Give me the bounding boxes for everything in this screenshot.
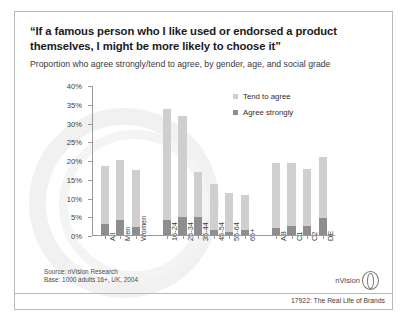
stacked-bar[interactable] [287, 163, 295, 236]
nvision-ellipse-icon [362, 271, 379, 290]
x-axis-tick [276, 236, 277, 239]
stacked-bar[interactable] [319, 157, 327, 236]
y-axis-tick-label: 15% [67, 175, 82, 184]
page-title: “If a famous person who I like used or e… [30, 24, 375, 53]
y-axis-tick-label: 10% [67, 194, 82, 203]
y-axis-tick-label: 35% [67, 100, 82, 109]
bar-segment [163, 109, 171, 220]
y-axis-line [92, 86, 93, 236]
bar-group[interactable] [163, 86, 171, 236]
x-axis-tick [136, 236, 137, 239]
x-axis-tick [183, 236, 184, 239]
legend-swatch [233, 94, 238, 99]
logo-text: nVision [335, 276, 360, 285]
y-axis-tick-label: 25% [67, 138, 82, 147]
x-axis-tick [292, 236, 293, 239]
stacked-bar[interactable] [163, 109, 171, 237]
stacked-bar[interactable] [116, 160, 124, 236]
x-axis-tick [105, 236, 106, 239]
bar-segment [241, 195, 249, 231]
x-axis-tick [198, 236, 199, 239]
bar-group[interactable] [178, 86, 186, 236]
x-axis-tick [214, 236, 215, 239]
bar-group[interactable] [303, 86, 311, 236]
bar-group[interactable] [132, 86, 140, 236]
x-axis-label: Women [139, 216, 148, 241]
legend-item[interactable]: Tend to agree [233, 92, 293, 101]
x-axis-tick [167, 236, 168, 239]
chart-plot-area: 0%5%10%15%20%25%30%35%40%AllMenWomen16-2… [92, 86, 335, 236]
source-note: Source: nVision Research Base: 1000 adul… [44, 268, 138, 284]
slide-container: “If a famous person who I like used or e… [14, 11, 393, 310]
x-axis-tick [307, 236, 308, 239]
x-axis-tick [323, 236, 324, 239]
legend-label: Agree strongly [243, 108, 293, 117]
bar-group[interactable] [210, 86, 218, 236]
bar-segment [287, 163, 295, 226]
slide-caption: 17922: The Real Life of Brands [291, 297, 385, 304]
legend-swatch [233, 110, 238, 115]
legend-item[interactable]: Agree strongly [233, 108, 293, 117]
y-axis-tick-label: 40% [67, 82, 82, 91]
bar-group[interactable] [116, 86, 124, 236]
stacked-bar[interactable] [101, 166, 109, 237]
y-axis-tick-label: 5% [71, 213, 82, 222]
bar-segment [178, 116, 186, 217]
y-axis-tick-label: 30% [67, 119, 82, 128]
bar-segment [319, 157, 327, 218]
bar-segment [101, 166, 109, 224]
x-axis-tick [229, 236, 230, 239]
bar-group[interactable] [194, 86, 202, 236]
bar-group[interactable] [101, 86, 109, 236]
y-axis-tick-label: 20% [67, 157, 82, 166]
stacked-bar[interactable] [303, 169, 311, 237]
source-line-1: Source: nVision Research [44, 268, 138, 276]
source-line-2: Base: 1000 adults 16+, UK, 2004 [44, 276, 138, 284]
bar-segment [272, 163, 280, 228]
stacked-bar[interactable] [272, 163, 280, 236]
chart-legend: Tend to agreeAgree strongly [233, 92, 293, 124]
bar-segment [303, 169, 311, 226]
legend-label: Tend to agree [243, 92, 291, 101]
page-subtitle: Proportion who agree strongly/tend to ag… [30, 59, 382, 70]
bar-group[interactable] [319, 86, 327, 236]
bar-segment [194, 172, 202, 216]
x-axis-tick [120, 236, 121, 239]
x-axis-tick [245, 236, 246, 239]
y-axis-tick-label: 0% [71, 232, 82, 241]
stacked-bar[interactable] [178, 116, 186, 236]
bar-segment [116, 160, 124, 220]
x-axis-line [92, 235, 335, 236]
nvision-logo: nVision [335, 271, 379, 290]
caption-divider: 17922: The Real Life of Brands [15, 293, 392, 309]
y-axis-tick: 0% [88, 236, 92, 237]
